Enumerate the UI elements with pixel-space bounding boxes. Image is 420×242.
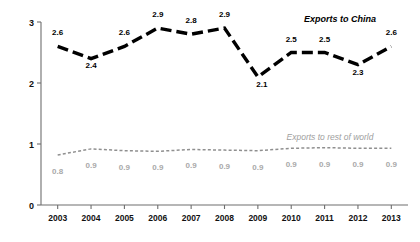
x-tick-label: 2008 — [215, 213, 234, 223]
data-label-rest-of-world: 0.9 — [252, 163, 264, 172]
x-tick-label: 2012 — [348, 213, 367, 223]
data-label-rest-of-world: 0.9 — [352, 160, 364, 169]
data-label-china: 2.6 — [386, 28, 398, 37]
y-tick-label: 1 — [29, 140, 34, 150]
x-tick-label: 2004 — [82, 213, 101, 223]
y-tick-label: 2 — [29, 79, 34, 89]
x-tick-label: 2009 — [248, 213, 267, 223]
data-label-rest-of-world: 0.9 — [119, 163, 131, 172]
data-label-rest-of-world: 0.9 — [319, 160, 331, 169]
x-tick-label: 2006 — [148, 213, 167, 223]
data-label-china: 2.4 — [85, 61, 97, 70]
y-tick-label: 3 — [29, 18, 34, 28]
data-label-rest-of-world: 0.9 — [186, 161, 198, 170]
data-label-china: 2.6 — [119, 28, 131, 37]
data-label-rest-of-world: 0.9 — [152, 163, 164, 172]
x-tick-label: 2013 — [382, 213, 401, 223]
y-axis-ticks: 3210 — [29, 18, 41, 211]
series-annotation-rest-of-world: Exports to rest of world — [287, 132, 374, 142]
data-label-china: 2.9 — [152, 10, 164, 19]
data-label-china: 2.9 — [219, 10, 231, 19]
series-line-rest-of-world — [58, 148, 392, 155]
series-line-china — [58, 28, 392, 77]
x-tick-label: 2007 — [182, 213, 201, 223]
x-axis-ticks: 2003200420052006200720082009201020112012… — [48, 205, 401, 223]
x-tick-label: 2005 — [115, 213, 134, 223]
data-labels-rest-of-world: 0.80.90.90.90.90.90.90.90.90.90.9 — [52, 160, 397, 176]
water-intensity-line-chart: 3210 20032004200520062007200820092010201… — [0, 0, 420, 242]
data-label-china: 2.3 — [352, 68, 364, 77]
data-label-rest-of-world: 0.9 — [286, 160, 298, 169]
x-tick-label: 2010 — [282, 213, 301, 223]
data-label-china: 2.1 — [256, 80, 268, 89]
data-label-rest-of-world: 0.9 — [85, 161, 97, 170]
data-label-rest-of-world: 0.8 — [52, 167, 64, 176]
x-tick-label: 2011 — [315, 213, 334, 223]
data-label-china: 2.5 — [286, 35, 298, 44]
data-label-rest-of-world: 0.9 — [386, 160, 398, 169]
y-tick-label: 0 — [29, 201, 34, 211]
data-label-china: 2.8 — [186, 16, 198, 25]
data-label-rest-of-world: 0.9 — [219, 162, 231, 171]
chart-container: 3210 20032004200520062007200820092010201… — [0, 0, 420, 242]
data-label-china: 2.6 — [52, 28, 64, 37]
data-label-china: 2.5 — [319, 35, 331, 44]
series-annotation-china: Exports to China — [304, 14, 376, 24]
x-tick-label: 2003 — [48, 213, 67, 223]
